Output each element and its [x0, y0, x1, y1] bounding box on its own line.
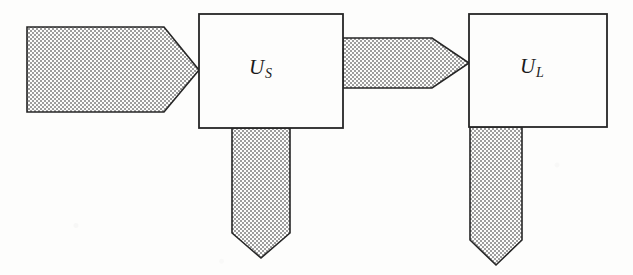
u-l-label-base: U: [520, 54, 535, 78]
u-s-label-base: U: [249, 55, 264, 79]
us-output-arrow: [232, 128, 290, 258]
diagram-canvas: US UL: [0, 0, 633, 275]
us-to-ul-arrow: [343, 38, 469, 88]
process-box-u-s-label: US: [249, 55, 272, 82]
process-box-u-l-label: UL: [520, 54, 544, 81]
block-flow-diagram: [0, 0, 633, 275]
u-l-label-subscript: L: [536, 65, 544, 80]
u-s-label-subscript: S: [265, 66, 272, 81]
input-arrow: [27, 27, 199, 112]
ul-output-arrow: [470, 127, 522, 265]
